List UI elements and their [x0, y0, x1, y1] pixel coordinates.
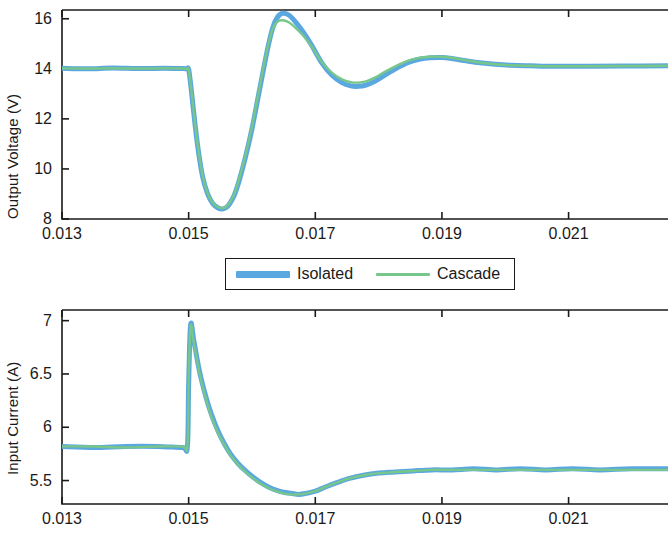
- legend-swatch-isolated-icon: [236, 271, 290, 278]
- x-tick-label: 0.017: [295, 510, 335, 528]
- x-tick-label: 0.021: [549, 510, 589, 528]
- legend-label-cascade: Cascade: [437, 265, 500, 283]
- x-tick-label: 0.015: [169, 510, 209, 528]
- chart-input-current: Input Current (A) 5.566.570.0130.0150.01…: [0, 290, 668, 542]
- x-tick-label: 0.015: [169, 225, 209, 243]
- figure-root: Output Voltage (V) 8101214160.0130.0150.…: [0, 0, 668, 542]
- legend-label-isolated: Isolated: [297, 265, 353, 283]
- y-tick-label: 10: [0, 160, 52, 178]
- voltage-plot-canvas: [0, 0, 668, 258]
- chart-output-voltage: Output Voltage (V) 8101214160.0130.0150.…: [0, 0, 668, 258]
- x-tick-label: 0.019: [422, 225, 462, 243]
- legend-item-isolated[interactable]: Isolated: [236, 259, 353, 289]
- legend: Isolated Cascade: [225, 258, 515, 290]
- x-tick-label: 0.013: [42, 225, 82, 243]
- y-tick-label: 6.5: [0, 365, 52, 383]
- x-tick-label: 0.017: [295, 225, 335, 243]
- y-tick-label: 6: [0, 418, 52, 436]
- y-tick-label: 7: [0, 312, 52, 330]
- legend-swatch-cascade-icon: [376, 273, 430, 276]
- y-tick-label: 5.5: [0, 472, 52, 490]
- x-tick-label: 0.021: [549, 225, 589, 243]
- y-tick-label: 14: [0, 60, 52, 78]
- y-tick-label: 16: [0, 10, 52, 28]
- legend-item-cascade[interactable]: Cascade: [376, 259, 500, 289]
- x-tick-label: 0.019: [422, 510, 462, 528]
- y-tick-label: 12: [0, 110, 52, 128]
- current-plot-canvas: [0, 290, 668, 542]
- x-tick-label: 0.013: [42, 510, 82, 528]
